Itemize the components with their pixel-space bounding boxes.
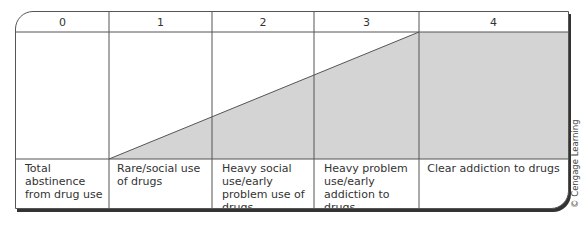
stage-label-4: Clear addiction to drugs [419, 162, 568, 175]
stage-number-1: 1 [109, 12, 212, 32]
shaded-severity-area [109, 32, 568, 159]
stage-number-4: 4 [419, 12, 568, 32]
stage-number-3: 3 [314, 12, 419, 32]
copyright-credit: © Cengage Learning [570, 119, 580, 208]
stage-label-1: Rare/social use of drugs [109, 162, 209, 188]
stage-label-0: Total abstinence from drug use [16, 162, 109, 201]
stage-label-3: Heavy problem use/early addiction to dru… [314, 162, 417, 209]
stage-label-2: Heavy social use/early problem use of dr… [212, 162, 312, 209]
stage-number-0: 0 [16, 12, 109, 32]
drug-use-continuum-diagram: 0 1 2 3 4 Total abstinence from drug use… [15, 11, 569, 209]
stage-number-2: 2 [212, 12, 314, 32]
